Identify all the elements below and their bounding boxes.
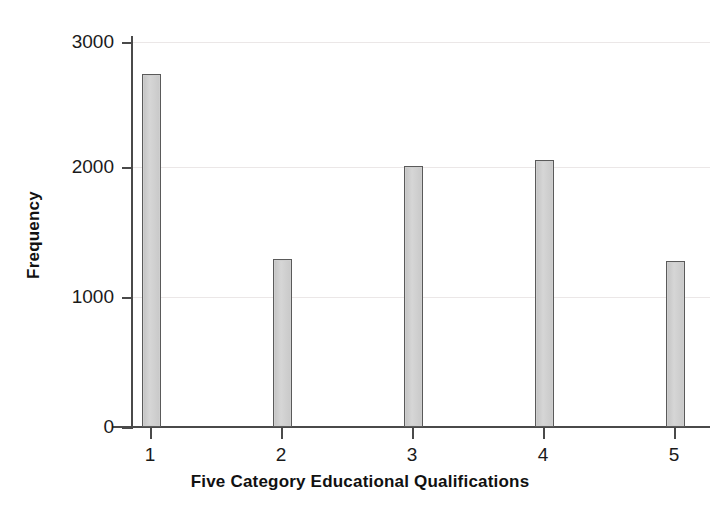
bar-category-1 [142,74,161,427]
y-tick-label-1000: 1000 [54,286,114,308]
bar-category-2 [273,259,292,427]
bar-fill [275,261,290,425]
y-tick-label-3000: 3000 [54,31,114,53]
y-tick-label-0: 0 [54,416,114,438]
x-axis-label: Five Category Educational Qualifications [0,472,720,492]
x-tick-2 [281,428,283,439]
y-tick-label-2000: 2000 [54,156,114,178]
bar-fill [144,76,159,425]
x-tick-label-3: 3 [392,444,432,466]
x-tick-label-4: 4 [523,444,563,466]
y-axis-label: Frequency [14,0,54,470]
x-tick-5 [674,428,676,439]
x-tick-label-2: 2 [261,444,301,466]
bar-category-3 [404,166,423,427]
x-tick-label-5: 5 [654,444,694,466]
y-tick-0 [122,427,133,429]
y-axis-label-text: Frequency [24,191,44,279]
y-axis-line [131,36,133,429]
bar-category-5 [666,261,685,427]
x-tick-4 [543,428,545,439]
x-tick-1 [150,428,152,439]
bar-category-4 [535,160,554,427]
bar-fill [406,168,421,425]
gridline-3000 [133,42,710,43]
bar-fill [537,162,552,425]
y-tick-3000 [122,42,133,44]
y-tick-2000 [122,167,133,169]
y-tick-1000 [122,297,133,299]
x-tick-label-1: 1 [130,444,170,466]
bar-fill [668,263,683,425]
x-tick-3 [412,428,414,439]
bar-chart-figure: Frequency 3000 2000 1000 0 1 2 3 4 5 Fiv… [0,0,720,530]
